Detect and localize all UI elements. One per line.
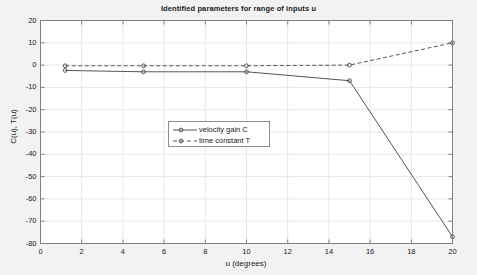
x-tick-label: 0 <box>29 247 53 256</box>
y-tick-label: -60 <box>11 194 37 203</box>
y-tick-label: 10 <box>11 38 37 47</box>
y-tick-label: -50 <box>11 172 37 181</box>
x-tick-label: 2 <box>70 247 94 256</box>
legend-item-velocity-gain: velocity gain C <box>172 124 248 135</box>
y-tick-label: -20 <box>11 105 37 114</box>
y-tick-label: 0 <box>11 60 37 69</box>
legend-label-time-constant: time constant T <box>199 136 250 145</box>
x-tick-label: 14 <box>317 247 341 256</box>
x-tick-label: 18 <box>399 247 423 256</box>
x-tick-label: 10 <box>235 247 259 256</box>
x-tick-label: 6 <box>152 247 176 256</box>
legend-label-velocity-gain: velocity gain C <box>199 125 248 134</box>
x-tick-label: 4 <box>111 247 135 256</box>
y-tick-label: -10 <box>11 82 37 91</box>
y-tick-label: -40 <box>11 149 37 158</box>
x-axis-title: u (degrees) <box>40 259 452 268</box>
legend-sample-dashed-line-icon <box>172 136 198 146</box>
legend-sample-solid-line-icon <box>172 125 198 135</box>
y-tick-label: -70 <box>11 216 37 225</box>
chart-title: Identified parameters for range of input… <box>0 4 477 13</box>
x-tick-label: 8 <box>193 247 217 256</box>
chart-legend: velocity gain C time constant T <box>168 121 270 147</box>
x-tick-label: 16 <box>358 247 382 256</box>
legend-item-time-constant: time constant T <box>172 135 250 146</box>
y-tick-label: -30 <box>11 127 37 136</box>
x-tick-label: 20 <box>441 247 465 256</box>
chart-screenshot: Identified parameters for range of input… <box>0 0 477 275</box>
x-tick-label: 12 <box>276 247 300 256</box>
y-tick-label: 20 <box>11 16 37 25</box>
